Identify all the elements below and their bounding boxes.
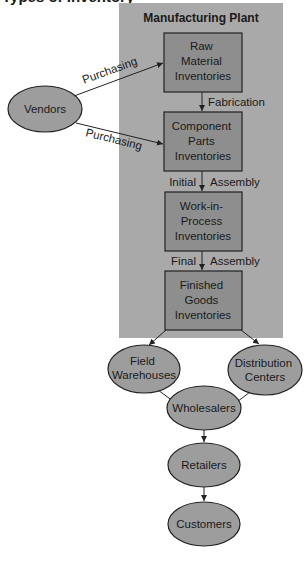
- raw-material-inventories-box: Raw Material Inventories: [164, 33, 242, 92]
- svg-text:Vendors: Vendors: [24, 103, 66, 115]
- initial-assembly-label: Assembly: [210, 176, 260, 188]
- inventory-flow-diagram: Types of Inventory Manufacturing Plant R…: [0, 0, 306, 565]
- component-parts-inventories-box: Component Parts Inventories: [164, 112, 242, 171]
- fabrication-label: Fabrication: [208, 96, 265, 108]
- diagram-title: Types of Inventory: [2, 0, 135, 5]
- svg-text:Retailers: Retailers: [181, 459, 227, 471]
- svg-text:Wholesalers: Wholesalers: [172, 402, 236, 414]
- customers-node: Customers: [168, 502, 240, 546]
- svg-text:Customers: Customers: [176, 518, 232, 530]
- retailers-node: Retailers: [168, 443, 240, 487]
- work-in-process-inventories-box: Work-in- Process Inventories: [165, 192, 242, 251]
- finished-goods-inventories-box: Finished Goods Inventories: [165, 271, 242, 330]
- vendors-node: Vendors: [8, 86, 82, 132]
- initial-label: Initial: [169, 176, 196, 188]
- svg-text:Work-in- Process I: Work-in- Process Inventories: [175, 200, 232, 242]
- final-assembly-label: Assembly: [210, 255, 260, 267]
- manufacturing-plant-label: Manufacturing Plant: [143, 11, 258, 25]
- distribution-centers-node: Distribution Centers: [228, 345, 302, 395]
- field-warehouses-node: Field Warehouses: [108, 345, 180, 393]
- wholesalers-node: Wholesalers: [167, 386, 241, 430]
- final-label: Final: [171, 255, 196, 267]
